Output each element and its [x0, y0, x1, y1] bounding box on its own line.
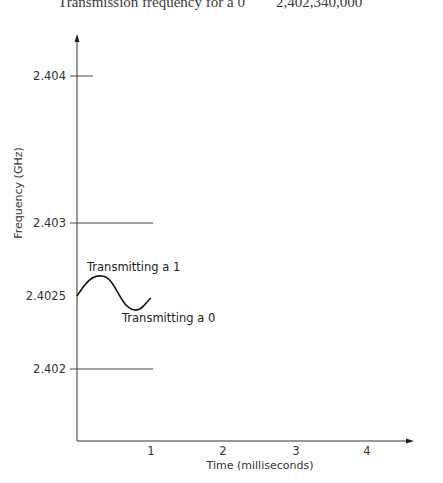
annotation-transmitting-0: Transmitting a 0 [121, 311, 215, 325]
x-tick-3: 3 [292, 444, 299, 458]
y-tick-2404: 2.404 [33, 69, 66, 83]
y-tick-24025: 2.4025 [26, 289, 66, 303]
x-axis-title: Time (milliseconds) [206, 459, 314, 472]
y-tick-2403: 2.403 [33, 216, 66, 230]
y-tick-2402: 2.402 [33, 362, 66, 376]
frequency-chart: 2.404 2.403 2.4025 2.402 1 2 3 4 Time (m… [0, 0, 443, 483]
x-tick-2: 2 [219, 444, 226, 458]
signal-wave [77, 276, 151, 310]
y-axis-title: Frequency (GHz) [12, 147, 25, 238]
x-tick-1: 1 [147, 444, 154, 458]
annotation-transmitting-1: Transmitting a 1 [86, 260, 180, 274]
x-tick-4: 4 [363, 444, 370, 458]
